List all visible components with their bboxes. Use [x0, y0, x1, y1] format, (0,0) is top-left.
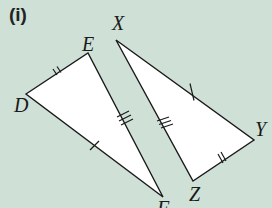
- congruent-triangles-diagram: [0, 0, 272, 208]
- vertex-label-f: F: [157, 198, 169, 208]
- vertex-label-y: Y: [255, 119, 266, 139]
- vertex-label-x: X: [112, 13, 124, 33]
- vertex-label-e: E: [82, 34, 94, 54]
- vertex-label-z: Z: [189, 184, 200, 204]
- vertex-label-d: D: [14, 95, 28, 115]
